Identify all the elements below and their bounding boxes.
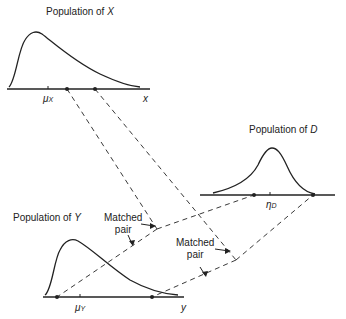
arrowhead-icon (202, 271, 208, 277)
x-mean-label: μX (43, 93, 53, 104)
diagram-canvas (0, 0, 346, 319)
matched-pair-label-2: Matched pair (176, 237, 214, 261)
arrowhead-icon (225, 248, 231, 254)
y-mean-label: μY (75, 302, 85, 313)
arrowhead-icon (150, 223, 156, 229)
d-point-1 (252, 193, 256, 197)
title-population-y: Population of Y (13, 212, 81, 223)
title-population-d: Population of D (249, 124, 317, 135)
d-density-curve (213, 148, 315, 194)
x-point-2 (93, 87, 97, 91)
y-density-curve (45, 240, 178, 295)
d-point-2 (311, 193, 315, 197)
x-density-curve (9, 32, 140, 87)
y-point-2 (150, 295, 154, 299)
x-point-1 (65, 87, 69, 91)
title-population-x: Population of X (46, 6, 114, 17)
match-line-y2 (152, 260, 236, 297)
d-mean-label: ηD (266, 199, 277, 210)
y-axis-label: y (181, 302, 186, 313)
y-point-1 (55, 295, 59, 299)
matched-pair-label-1: Matched pair (104, 212, 142, 236)
x-axis-label: x (143, 93, 148, 104)
match-line-d1 (157, 195, 254, 229)
